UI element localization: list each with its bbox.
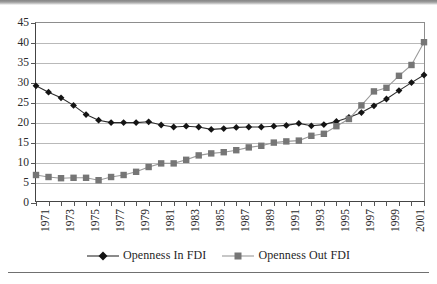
y-axis-label: 20 <box>18 117 30 129</box>
x-axis-label: 1995 <box>340 209 352 232</box>
data-point-marker <box>371 88 377 94</box>
y-axis-label: 0 <box>23 197 29 209</box>
y-axis-label: 40 <box>18 37 30 49</box>
x-axis-label: 1981 <box>165 209 177 232</box>
x-axis-label: 1987 <box>240 209 252 232</box>
data-point-marker <box>120 172 126 178</box>
data-point-marker <box>45 89 52 96</box>
data-point-marker <box>246 144 252 150</box>
x-axis-label: 1999 <box>390 209 402 232</box>
x-axis-label: 1991 <box>290 209 302 232</box>
data-point-marker <box>408 62 414 68</box>
diamond-marker-icon <box>87 250 119 262</box>
data-point-marker <box>195 124 202 131</box>
data-point-marker <box>120 119 127 126</box>
y-axis-label: 25 <box>18 97 30 109</box>
chart-legend: Openness In FDI Openness Out FDI <box>0 248 437 263</box>
plot-area: 051015202530354045 197119731975197719791… <box>35 22 425 202</box>
data-point-marker <box>308 122 315 129</box>
data-point-marker <box>295 120 302 127</box>
data-point-marker <box>233 124 240 131</box>
data-point-marker <box>221 149 227 155</box>
legend-label-openness-out-fdi: Openness Out FDI <box>258 248 350 263</box>
x-axis-label: 1977 <box>115 209 127 232</box>
data-point-marker <box>196 152 202 158</box>
series-line-openness-in-fdi <box>36 75 424 129</box>
series-group <box>36 23 426 203</box>
data-point-marker <box>170 124 177 131</box>
data-point-marker <box>245 124 252 131</box>
y-axis-label: 35 <box>18 57 30 69</box>
data-point-marker <box>321 131 327 137</box>
data-point-marker <box>145 164 151 170</box>
x-axis-label: 1979 <box>140 209 152 232</box>
data-point-marker <box>358 109 365 116</box>
data-point-marker <box>58 175 64 181</box>
data-point-marker <box>220 125 227 132</box>
data-point-marker <box>396 73 402 79</box>
data-point-marker <box>233 147 239 153</box>
data-point-marker <box>283 138 289 144</box>
x-axis-label: 1997 <box>365 209 377 232</box>
data-point-marker <box>183 123 190 130</box>
y-axis-label: 10 <box>18 157 30 169</box>
data-point-marker <box>396 87 403 94</box>
legend-item-openness-in-fdi: Openness In FDI <box>87 248 207 263</box>
y-axis-label: 45 <box>18 17 30 29</box>
x-axis-label: 1989 <box>265 209 277 232</box>
data-point-marker <box>258 143 264 149</box>
data-point-marker <box>208 150 214 156</box>
data-point-marker <box>283 122 290 129</box>
data-point-marker <box>45 174 51 180</box>
data-point-marker <box>183 157 189 163</box>
data-point-marker <box>33 172 39 178</box>
data-point-marker <box>358 102 364 108</box>
data-point-marker <box>108 174 114 180</box>
data-point-marker <box>333 123 339 129</box>
x-axis-label: 1973 <box>65 209 77 232</box>
data-point-marker <box>145 118 152 125</box>
data-point-marker <box>108 119 115 126</box>
x-axis-label: 1975 <box>90 209 102 232</box>
data-point-marker <box>58 94 65 101</box>
y-axis-label: 15 <box>18 137 30 149</box>
data-point-marker <box>346 116 352 122</box>
y-axis-label: 5 <box>23 177 29 189</box>
legend-label-openness-in-fdi: Openness In FDI <box>123 248 207 263</box>
data-point-marker <box>158 122 165 129</box>
data-point-marker <box>133 169 139 175</box>
data-point-marker <box>308 133 314 139</box>
data-point-marker <box>158 160 164 166</box>
data-point-marker <box>83 175 89 181</box>
data-point-marker <box>270 123 277 130</box>
data-point-marker <box>371 102 378 109</box>
x-axis-label: 2001 <box>415 209 427 232</box>
data-point-marker <box>421 39 427 45</box>
legend-item-openness-out-fdi: Openness Out FDI <box>222 248 350 263</box>
data-point-marker <box>170 160 176 166</box>
chart-figure: 051015202530354045 197119731975197719791… <box>0 0 437 284</box>
y-axis-label: 30 <box>18 77 30 89</box>
data-point-marker <box>95 177 101 183</box>
data-point-marker <box>208 126 215 133</box>
data-point-marker <box>95 117 102 124</box>
data-point-marker <box>421 72 428 79</box>
x-axis-label: 1985 <box>215 209 227 232</box>
data-point-marker <box>383 96 390 103</box>
horizontal-rule <box>8 272 429 273</box>
x-axis-label: 1993 <box>315 209 327 232</box>
data-point-marker <box>271 139 277 145</box>
data-point-marker <box>408 79 415 86</box>
square-marker-icon <box>222 250 254 262</box>
x-axis-label: 1971 <box>40 209 52 232</box>
data-point-marker <box>133 119 140 126</box>
x-axis-label: 1983 <box>190 209 202 232</box>
data-point-marker <box>320 121 327 128</box>
data-point-marker <box>70 175 76 181</box>
data-point-marker <box>383 85 389 91</box>
series-line-openness-out-fdi <box>36 42 424 180</box>
data-point-marker <box>296 137 302 143</box>
data-point-marker <box>258 124 265 131</box>
